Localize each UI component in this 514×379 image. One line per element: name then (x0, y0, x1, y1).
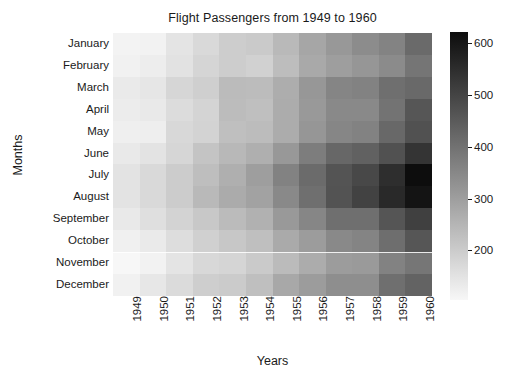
heatmap-cell (166, 99, 193, 121)
heatmap-cell (246, 208, 273, 230)
heatmap-cell (379, 230, 406, 252)
heatmap-cell (299, 230, 326, 252)
heatmap-cell (299, 164, 326, 186)
heatmap-cell (326, 252, 353, 274)
heatmap-cell (166, 33, 193, 55)
colorbar-tick-label-500: 500 (474, 89, 493, 101)
heatmap-cell (113, 208, 140, 230)
heatmap-cell (140, 252, 167, 274)
heatmap-cell (326, 77, 353, 99)
heatmap-cell (193, 143, 220, 165)
heatmap-cell (326, 33, 353, 55)
colorbar-tick-label-200: 200 (474, 244, 493, 256)
heatmap-cell (273, 230, 300, 252)
heatmap-cell (140, 164, 167, 186)
heatmap-cell (352, 33, 379, 55)
heatmap-cell (246, 164, 273, 186)
heatmap-cell (405, 33, 432, 55)
heatmap-cell (405, 121, 432, 143)
heatmap-cell (140, 143, 167, 165)
heatmap-cell (405, 77, 432, 99)
x-axis-tick-1960: 1960 (424, 296, 436, 350)
heatmap-cell (113, 77, 140, 99)
heatmap-cell (113, 252, 140, 274)
heatmap-cell (326, 230, 353, 252)
heatmap-cell (273, 274, 300, 296)
heatmap-cell (140, 99, 167, 121)
heatmap-cell (405, 230, 432, 252)
heatmap-cell (113, 55, 140, 77)
heatmap-cell (352, 77, 379, 99)
colorbar-tick-label-400: 400 (474, 141, 493, 153)
heatmap-cell (140, 274, 167, 296)
heatmap-cell (219, 230, 246, 252)
heatmap-cell (193, 55, 220, 77)
heatmap-cell (140, 55, 167, 77)
heatmap-cell (405, 186, 432, 208)
heatmap-cell (193, 230, 220, 252)
x-axis-tick-1951: 1951 (184, 296, 196, 350)
heatmap-cell (379, 186, 406, 208)
heatmap-cell (352, 230, 379, 252)
heatmap-cell (273, 164, 300, 186)
heatmap-cell (379, 208, 406, 230)
heatmap-cell (140, 208, 167, 230)
heatmap-cell (379, 252, 406, 274)
y-axis-tick-october: October (9, 234, 109, 246)
x-axis-tick-1952: 1952 (211, 296, 223, 350)
heatmap-cell (193, 121, 220, 143)
heatmap-cell (219, 274, 246, 296)
heatmap-cell (352, 143, 379, 165)
heatmap-cell (352, 208, 379, 230)
heatmap-cell (166, 186, 193, 208)
heatmap-cell (193, 77, 220, 99)
heatmap-cell (113, 121, 140, 143)
heatmap-cell (113, 230, 140, 252)
heatmap-cell (352, 121, 379, 143)
heatmap-cell (219, 143, 246, 165)
heatmap-cell (273, 99, 300, 121)
heatmap-cell (379, 143, 406, 165)
heatmap-cell (326, 208, 353, 230)
heatmap-cell (140, 186, 167, 208)
heatmap-cell (193, 186, 220, 208)
y-axis-tick-february: February (9, 59, 109, 71)
heatmap-cell (273, 33, 300, 55)
heatmap-cell (352, 55, 379, 77)
heatmap-cell (299, 274, 326, 296)
heatmap-cell (352, 186, 379, 208)
heatmap-cell (246, 252, 273, 274)
heatmap-cell (273, 208, 300, 230)
heatmap-cell (405, 143, 432, 165)
heatmap-cell (219, 208, 246, 230)
x-axis-tick-1957: 1957 (344, 296, 356, 350)
heatmap-cell (246, 99, 273, 121)
heatmap-cell (326, 99, 353, 121)
heatmap-cell (246, 230, 273, 252)
heatmap-cell (299, 77, 326, 99)
x-axis-tick-labels: 1949195019511952195319541955195619571958… (113, 298, 432, 352)
heatmap-cell (193, 252, 220, 274)
heatmap-cell (219, 252, 246, 274)
heatmap-cell (246, 77, 273, 99)
heatmap-cell (352, 99, 379, 121)
heatmap-cell (405, 208, 432, 230)
heatmap-cell (166, 121, 193, 143)
heatmap-cell (299, 143, 326, 165)
colorbar-tickmark (468, 147, 472, 148)
colorbar-tickmark (468, 250, 472, 251)
colorbar-tickmark (468, 43, 472, 44)
heatmap-cell (299, 33, 326, 55)
x-axis-tick-1956: 1956 (317, 296, 329, 350)
y-axis-tick-november: November (9, 256, 109, 268)
heatmap-cell (113, 164, 140, 186)
heatmap-cell (166, 55, 193, 77)
heatmap-cell (193, 99, 220, 121)
x-axis-title: Years (113, 354, 432, 368)
heatmap-grid (113, 33, 432, 296)
heatmap-cell (246, 186, 273, 208)
x-axis-tick-1953: 1953 (238, 296, 250, 350)
colorbar (450, 32, 468, 300)
heatmap-cell (405, 164, 432, 186)
heatmap-cell (299, 186, 326, 208)
